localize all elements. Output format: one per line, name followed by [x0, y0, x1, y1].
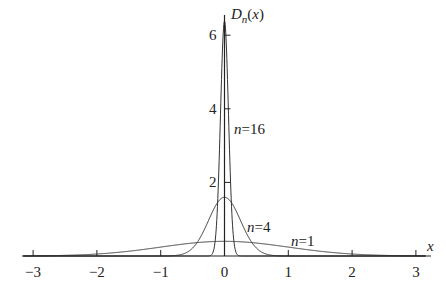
x-tick-label: 0	[221, 264, 229, 280]
curve-label-n-1: n=1	[291, 233, 314, 249]
y-tick-label: 4	[209, 101, 217, 117]
chart-area: −3−2−10123246xDn(x)n=1n=4n=16	[0, 0, 446, 290]
curve-label-n-16: n=16	[234, 121, 265, 137]
x-axis-label: x	[426, 238, 434, 254]
y-axis-label: Dn(x)	[230, 6, 264, 25]
x-tick-label: −1	[153, 264, 169, 280]
x-tick-label: 3	[412, 264, 420, 280]
x-tick-label: −3	[25, 264, 41, 280]
x-tick-label: 2	[348, 264, 356, 280]
y-tick-label: 6	[209, 27, 217, 43]
y-tick-label: 2	[209, 174, 217, 190]
x-tick-label: 1	[285, 264, 293, 280]
x-tick-label: −2	[89, 264, 105, 280]
curve-label-n-4: n=4	[247, 219, 271, 235]
